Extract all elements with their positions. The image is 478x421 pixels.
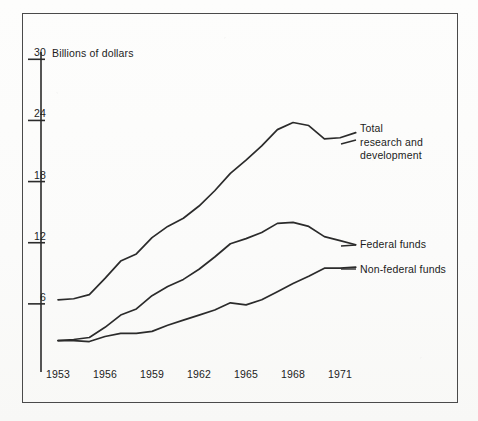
y-tick-label-18: 18 bbox=[24, 169, 46, 181]
x-tick-label-1953: 1953 bbox=[38, 368, 78, 380]
y-axis-ticks bbox=[28, 59, 45, 304]
chart-plot-area bbox=[0, 0, 478, 421]
y-axis bbox=[28, 52, 45, 372]
series-lines bbox=[58, 122, 356, 341]
leader-line-total bbox=[341, 140, 356, 144]
series-line-non-federal-funds bbox=[58, 267, 356, 341]
y-tick-label-6: 6 bbox=[24, 291, 46, 303]
x-tick-label-1965: 1965 bbox=[226, 368, 266, 380]
leader-line-federal bbox=[341, 245, 356, 246]
x-tick-label-1971: 1971 bbox=[320, 368, 360, 380]
series-line-total-research-and-development bbox=[58, 122, 356, 299]
x-tick-label-1956: 1956 bbox=[85, 368, 125, 380]
x-tick-label-1968: 1968 bbox=[273, 368, 313, 380]
axis-title: Billions of dollars bbox=[52, 47, 134, 59]
series-leader-lines bbox=[341, 140, 356, 269]
y-tick-label-12: 12 bbox=[24, 230, 46, 242]
y-tick-label-30: 30 bbox=[24, 46, 46, 58]
x-tick-label-1962: 1962 bbox=[179, 368, 219, 380]
y-tick-label-24: 24 bbox=[24, 107, 46, 119]
x-tick-label-1959: 1959 bbox=[132, 368, 172, 380]
series-label-nonfederal: Non-federal funds bbox=[360, 263, 446, 277]
chart-page: Billions of dollars 302418126 1953195619… bbox=[0, 0, 478, 421]
series-label-total: Total research and development bbox=[360, 122, 423, 163]
series-label-federal: Federal funds bbox=[360, 238, 426, 252]
